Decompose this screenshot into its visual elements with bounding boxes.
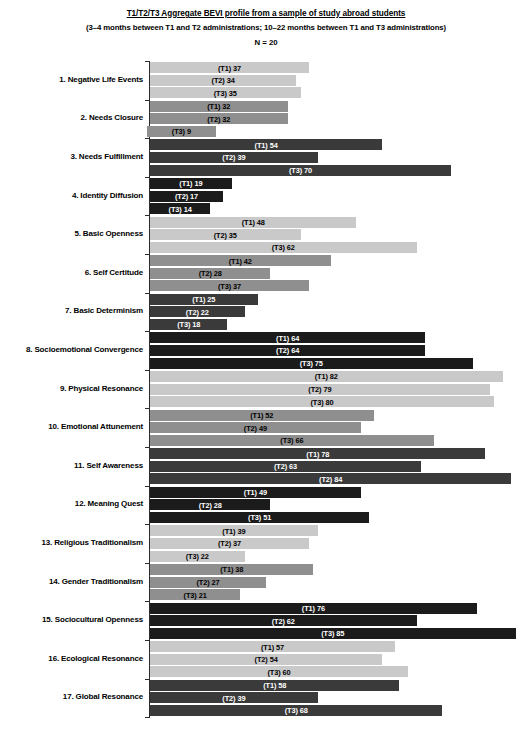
bar-row: (T2) 17 — [0, 191, 532, 202]
bar-row: (T2) 27 — [0, 577, 532, 588]
bar-value-label: (T2) 27 — [150, 578, 266, 587]
bar-value-label: (T2) 22 — [150, 307, 245, 316]
bar-value-label: (T3) 51 — [150, 513, 369, 522]
bar-row: (T2) 63 — [0, 461, 532, 472]
bar-row: (T1) 37 — [0, 62, 532, 73]
bar-value-label: (T3) 68 — [150, 706, 442, 715]
bar-row: (T1) 38 — [0, 564, 532, 575]
bar-value-label: (T1) 19 — [150, 179, 232, 188]
bar-value-label: (T1) 49 — [150, 488, 361, 497]
bar-row: (T2) 62 — [0, 615, 532, 626]
bar-row: (T1) 32 — [0, 101, 532, 112]
bar-row: (T1) 58 — [0, 680, 532, 691]
bar-row: (T3) 18 — [0, 319, 532, 330]
bar-row: (T3) 75 — [0, 358, 532, 369]
bar-value-label: (T1) 78 — [150, 449, 485, 458]
bar-value-label: (T3) 60 — [150, 667, 408, 676]
bar-row: (T2) 35 — [0, 229, 532, 240]
bar-value-label: (T3) 9 — [147, 127, 216, 136]
bar-row: (T1) 39 — [0, 525, 532, 536]
bar-value-label: (T1) 39 — [150, 526, 318, 535]
bar-value-label: (T2) 17 — [150, 192, 223, 201]
bar-row: (T3) 51 — [0, 512, 532, 523]
bar-value-label: (T3) 66 — [150, 436, 434, 445]
bar-value-label: (T1) 25 — [150, 295, 258, 304]
bar-row: (T3) 21 — [0, 589, 532, 600]
bar-value-label: (T3) 18 — [150, 320, 227, 329]
bar-row: (T2) 32 — [0, 113, 532, 124]
category-group: 5. Basic Openness(T1) 48(T2) 35(T3) 62 — [0, 215, 532, 254]
bar-row: (T2) 39 — [0, 692, 532, 703]
bar-value-label: (T2) 34 — [150, 76, 296, 85]
bar-row: (T2) 28 — [0, 268, 532, 279]
bar-row: (T1) 52 — [0, 410, 532, 421]
bar-row: (T2) 64 — [0, 345, 532, 356]
category-group: 6. Self Certitude(T1) 42(T2) 28(T3) 37 — [0, 254, 532, 293]
bar-value-label: (T1) 58 — [150, 681, 399, 690]
bar-value-label: (T2) 63 — [150, 462, 421, 471]
bar-row: (T2) 22 — [0, 306, 532, 317]
category-group: 14. Gender Traditionalism(T1) 38(T2) 27(… — [0, 563, 532, 602]
bar-value-label: (T1) 37 — [150, 63, 309, 72]
bar-row: (T3) 80 — [0, 396, 532, 407]
bar-value-label: (T2) 79 — [150, 385, 490, 394]
bar-value-label: (T2) 32 — [150, 114, 288, 123]
bar-value-label: (T3) 70 — [150, 166, 451, 175]
bar-value-label: (T3) 14 — [150, 204, 210, 213]
bar-value-label: (T2) 37 — [150, 539, 309, 548]
axis-tick — [145, 717, 150, 718]
bar-value-label: (T1) 57 — [150, 642, 395, 651]
bar-row: (T3) 22 — [0, 551, 532, 562]
plot-area: 1. Negative Life Events(T1) 37(T2) 34(T3… — [0, 61, 532, 721]
bar-value-label: (T1) 64 — [150, 333, 425, 342]
bar-row: (T3) 37 — [0, 280, 532, 291]
bar-value-label: (T3) 35 — [150, 88, 301, 97]
bar-value-label: (T2) 39 — [150, 693, 318, 702]
category-group: 3. Needs Fulfillment(T1) 54(T2) 39(T3) 7… — [0, 138, 532, 177]
category-group: 1. Negative Life Events(T1) 37(T2) 34(T3… — [0, 61, 532, 100]
bar-row: (T3) 60 — [0, 666, 532, 677]
bar-value-label: (T1) 54 — [150, 140, 382, 149]
bar-row: (T3) 85 — [0, 628, 532, 639]
bar-row: (T2) 54 — [0, 654, 532, 665]
bar-row: (T1) 49 — [0, 487, 532, 498]
bar-row: (T1) 78 — [0, 448, 532, 459]
bar-row: (T1) 25 — [0, 294, 532, 305]
bar-row: (T3) 9 — [0, 126, 532, 137]
chart-page: T1/T2/T3 Aggregate BEVI profile from a s… — [0, 0, 532, 731]
category-group: 7. Basic Determinism(T1) 25(T2) 22(T3) 1… — [0, 293, 532, 332]
bar-value-label: (T3) 62 — [150, 243, 417, 252]
bar-row: (T3) 35 — [0, 87, 532, 98]
bar-value-label: (T3) 75 — [150, 359, 473, 368]
bar-value-label: (T2) 62 — [150, 616, 417, 625]
bar-value-label: (T1) 82 — [150, 372, 503, 381]
bar-row: (T2) 79 — [0, 384, 532, 395]
bar-row: (T1) 48 — [0, 217, 532, 228]
bar-row: (T2) 39 — [0, 152, 532, 163]
bar-value-label: (T2) 64 — [150, 346, 425, 355]
bar-row: (T1) 57 — [0, 641, 532, 652]
bar-row: (T2) 34 — [0, 75, 532, 86]
bar-value-label: (T1) 42 — [150, 256, 331, 265]
category-group: 8. Socioemotional Convergence(T1) 64(T2)… — [0, 331, 532, 370]
bar-row: (T3) 14 — [0, 203, 532, 214]
bar-row: (T3) 66 — [0, 435, 532, 446]
bar-row: (T2) 28 — [0, 499, 532, 510]
bar-value-label: (T2) 28 — [150, 269, 270, 278]
category-group: 10. Emotional Attunement(T1) 52(T2) 49(T… — [0, 408, 532, 447]
chart-subtitle: (3–4 months between T1 and T2 administra… — [0, 21, 532, 34]
bar-value-label: (T1) 48 — [150, 218, 356, 227]
bar-value-label: (T2) 39 — [150, 153, 318, 162]
bar-row: (T1) 42 — [0, 255, 532, 266]
chart-title: T1/T2/T3 Aggregate BEVI profile from a s… — [0, 8, 532, 20]
chart-header: T1/T2/T3 Aggregate BEVI profile from a s… — [0, 8, 532, 49]
bar-value-label: (T1) 38 — [150, 565, 313, 574]
bar-value-label: (T2) 49 — [150, 423, 361, 432]
bar-value-label: (T3) 85 — [150, 629, 516, 638]
bar-value-label: (T1) 32 — [150, 102, 288, 111]
bar-row: (T1) 82 — [0, 371, 532, 382]
bar-row: (T3) 70 — [0, 165, 532, 176]
bar-row: (T2) 49 — [0, 422, 532, 433]
bar-row: (T3) 68 — [0, 705, 532, 716]
bar-value-label: (T2) 28 — [150, 500, 270, 509]
